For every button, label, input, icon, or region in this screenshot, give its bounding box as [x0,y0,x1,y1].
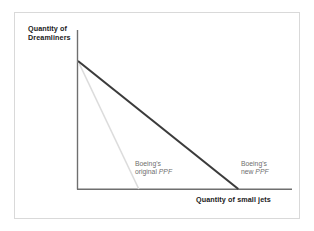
x-axis-title: Quantity of small jets [196,196,271,205]
new-ppf-label: Boeing's new PPF [241,160,269,177]
original-ppf-label-acronym: PPF [159,168,172,175]
original-ppf-label-line2: original PPF [135,168,172,176]
original-ppf-label-line1: Boeing's [135,160,172,168]
original-ppf-label-prefix: original [135,168,159,175]
y-axis-title: Quantity of Dreamliners [28,25,71,42]
original-ppf-line [78,61,139,189]
new-ppf-label-prefix: new [241,168,255,175]
y-axis-title-line2: Dreamliners [28,34,71,43]
original-ppf-label: Boeing's original PPF [135,160,172,177]
new-ppf-label-line2: new PPF [241,168,269,176]
new-ppf-label-line1: Boeing's [241,160,269,168]
new-ppf-label-acronym: PPF [255,168,268,175]
x-axis-title-label: Quantity of small jets [196,195,271,204]
ppf-figure: Quantity of Dreamliners Quantity of smal… [0,0,314,231]
